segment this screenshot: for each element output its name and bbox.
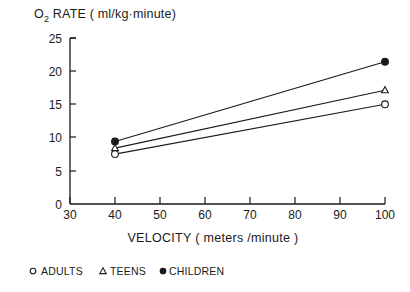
y-tick-label-10: 10	[49, 131, 63, 145]
chart-legend: ADULTS TEENS CHILDREN	[30, 265, 224, 277]
y-tick-label-20: 20	[49, 65, 63, 79]
series-line-teens	[115, 90, 385, 148]
legend-label-teens: TEENS	[110, 265, 146, 277]
x-tick-label-80: 80	[288, 208, 302, 222]
legend-label-adults: ADULTS	[41, 265, 83, 277]
x-tick-label-100: 100	[375, 208, 395, 222]
marker-adults-40	[112, 151, 119, 158]
x-tick-label-60: 60	[198, 208, 212, 222]
x-tick-label-90: 90	[333, 208, 347, 222]
chart-title-main: O	[34, 7, 44, 21]
oxygen-rate-velocity-chart: O2 RATE ( ml/kg·minute) 25 20 15 10 5 0 …	[0, 0, 410, 292]
x-tick-label-40: 40	[108, 208, 122, 222]
legend-open-triangle-icon	[100, 268, 106, 274]
chart-title: O2 RATE ( ml/kg·minute)	[34, 7, 176, 24]
x-tick-label-30: 30	[63, 208, 77, 222]
marker-teens-100	[382, 87, 389, 93]
y-tick-label-5: 5	[55, 165, 62, 179]
legend-open-circle-icon	[30, 268, 36, 274]
y-tick-label-0: 0	[55, 198, 62, 212]
marker-adults-100	[382, 101, 389, 108]
marker-children-100	[382, 58, 389, 65]
y-tick-label-25: 25	[49, 32, 63, 46]
x-axis-title: VELOCITY ( meters /minute )	[127, 231, 298, 245]
legend-label-children: CHILDREN	[169, 265, 224, 277]
y-tick-label-15: 15	[49, 98, 63, 112]
x-tick-label-70: 70	[243, 208, 257, 222]
x-tick-label-50: 50	[153, 208, 167, 222]
legend-filled-circle-icon	[160, 268, 166, 274]
chart-title-rest: RATE ( ml/kg·minute)	[49, 7, 176, 21]
